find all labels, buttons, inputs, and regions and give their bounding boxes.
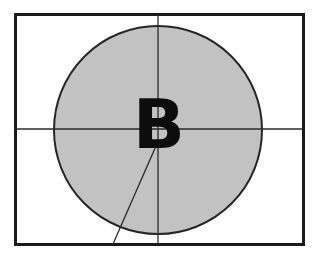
letter-b-label: B bbox=[133, 85, 183, 164]
diagram-svg: B bbox=[0, 0, 314, 256]
figure-canvas: B bbox=[0, 0, 314, 256]
